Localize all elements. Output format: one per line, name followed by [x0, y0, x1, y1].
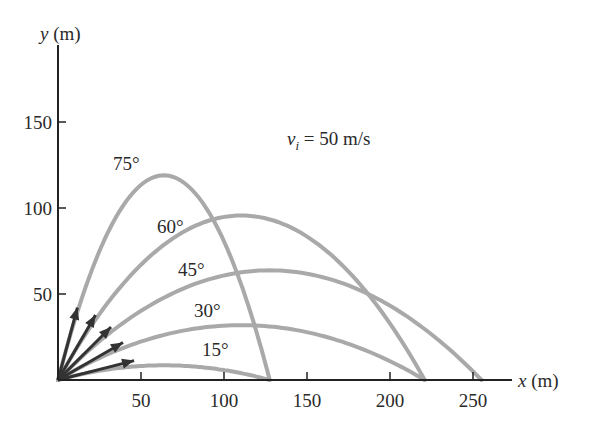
- angle-label-75: 75°: [113, 153, 140, 174]
- initial-speed-annotation: vi = 50 m/s: [287, 128, 370, 153]
- y-tick-label: 100: [24, 198, 53, 219]
- angle-label-45: 45°: [178, 259, 205, 280]
- trajectory-curves: [58, 175, 482, 380]
- projectile-trajectory-chart: 5010015020025050100150y (m)x (m)75°60°45…: [0, 0, 609, 422]
- x-axis-label: x (m): [517, 370, 559, 392]
- angle-label-15: 15°: [202, 339, 229, 360]
- x-tick-label: 200: [376, 390, 405, 411]
- x-tick-label: 250: [459, 390, 488, 411]
- x-tick-label: 150: [293, 390, 322, 411]
- trajectory-60deg: [58, 216, 425, 381]
- angle-label-30: 30°: [194, 300, 221, 321]
- y-tick-label: 50: [33, 284, 52, 305]
- angle-label-60: 60°: [157, 216, 184, 237]
- y-tick-label: 150: [24, 112, 53, 133]
- x-tick-label: 50: [132, 390, 151, 411]
- y-axis-label: y (m): [38, 23, 81, 45]
- x-tick-label: 100: [210, 390, 239, 411]
